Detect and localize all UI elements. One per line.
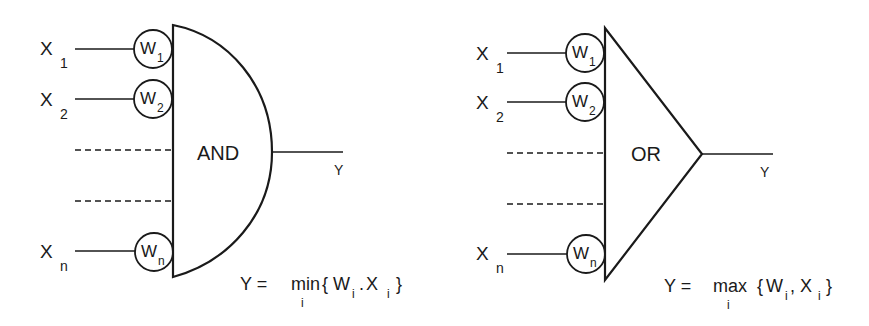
formula-close-brace: } (396, 274, 402, 294)
input-var-xn-sub: n (496, 260, 504, 276)
weight-label-w2: W (140, 89, 156, 108)
input-var-xn: X (476, 243, 489, 264)
weight-label-w2: W (572, 92, 588, 111)
or-input-2: X 2 W 2 (476, 83, 604, 125)
weight-label-wn-sub: n (158, 254, 165, 268)
formula-x-sub: i (818, 289, 821, 303)
or-gate-label: OR (631, 143, 661, 165)
formula-op-sub: i (727, 298, 730, 312)
input-var-xn: X (40, 241, 53, 262)
and-gate-label: AND (197, 142, 239, 164)
input-var-x2-sub: 2 (496, 109, 504, 125)
and-neuron: AND X 1 W 1 X 2 W 2 X n W n (40, 25, 402, 310)
input-var-x2: X (476, 92, 489, 113)
fuzzy-neuron-diagram: AND X 1 W 1 X 2 W 2 X n W n (0, 0, 869, 326)
and-input-2: X 2 W 2 (40, 80, 172, 122)
weight-label-wn-sub: n (590, 256, 597, 270)
input-var-x2: X (40, 89, 53, 110)
weight-label-w1-sub: 1 (589, 55, 596, 69)
formula-lhs: Y = (664, 276, 691, 296)
weight-label-w2-sub: 2 (157, 101, 164, 115)
formula-lhs: Y = (240, 274, 267, 294)
weight-label-wn: W (573, 244, 589, 263)
formula-x: X (366, 274, 378, 294)
formula-x: X (800, 276, 812, 296)
and-formula: Y = min i { W i . X i } (240, 274, 402, 310)
weight-label-w1: W (572, 43, 588, 62)
formula-w-sub: i (352, 287, 355, 301)
weight-label-w1: W (140, 39, 156, 58)
formula-w: W (333, 274, 350, 294)
input-var-x1-sub: 1 (60, 55, 68, 71)
or-neuron: OR X 1 W 1 X 2 W 2 X n W n (476, 28, 832, 312)
formula-op-sub: i (301, 296, 304, 310)
formula-w-sub: i (785, 289, 788, 303)
weight-label-w1-sub: 1 (157, 51, 164, 65)
and-input-n: X n W n (40, 233, 173, 274)
or-formula: Y = max i { W i , X i } (664, 276, 832, 312)
and-input-1: X 1 W 1 (40, 30, 172, 71)
formula-sep: . (359, 274, 364, 294)
or-input-1: X 1 W 1 (476, 34, 604, 76)
and-output-label: Y (334, 162, 344, 178)
formula-x-sub: i (387, 287, 390, 301)
formula-open-brace: { (757, 276, 763, 296)
formula-sep: , (790, 276, 795, 296)
or-output-label: Y (760, 164, 770, 180)
formula-w: W (766, 276, 783, 296)
formula-op: min (291, 274, 320, 294)
or-input-n: X n W n (476, 235, 605, 276)
formula-close-brace: } (826, 276, 832, 296)
input-var-x1-sub: 1 (496, 60, 504, 76)
input-var-xn-sub: n (60, 258, 68, 274)
input-var-x2-sub: 2 (60, 106, 68, 122)
formula-open-brace: { (322, 274, 328, 294)
weight-label-wn: W (141, 242, 157, 261)
weight-label-w2-sub: 2 (589, 104, 596, 118)
input-var-x1: X (40, 38, 53, 59)
input-var-x1: X (476, 43, 489, 64)
formula-op: max (713, 276, 747, 296)
